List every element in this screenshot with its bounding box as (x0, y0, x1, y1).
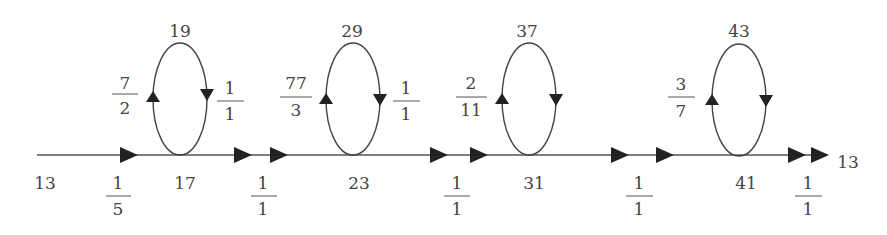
fraction-loop-left: 2 11 (456, 73, 487, 120)
fraction-loop-right: 1 1 (393, 78, 420, 124)
loop-41 (705, 44, 773, 156)
loop-top-label: 29 (341, 21, 363, 41)
svg-text:1: 1 (803, 173, 814, 193)
fraction-loop-left: 7 2 (112, 73, 138, 118)
svg-text:5: 5 (113, 199, 124, 219)
fraction-loop-right: 1 1 (217, 78, 244, 124)
svg-text:3: 3 (676, 74, 687, 94)
arrow-up-icon (495, 93, 509, 104)
fraction-edge: 1 1 (251, 173, 277, 219)
fraction-loop-left: 3 7 (668, 74, 695, 121)
loop-23 (319, 43, 387, 155)
svg-text:1: 1 (225, 104, 236, 124)
arrow-right-icon (430, 147, 448, 163)
arrow-right-icon (470, 147, 488, 163)
arrow-up-icon (146, 91, 160, 102)
loop-top-label: 43 (728, 21, 750, 41)
svg-text:3: 3 (291, 100, 302, 120)
svg-text:1: 1 (258, 199, 269, 219)
svg-text:1: 1 (258, 173, 269, 193)
loop-31 (495, 43, 563, 155)
svg-text:1: 1 (803, 199, 814, 219)
svg-text:1: 1 (452, 173, 463, 193)
loop-top-label: 37 (516, 21, 538, 41)
svg-text:2: 2 (120, 98, 131, 118)
arrow-right-icon (234, 147, 252, 163)
fraction-edge: 1 1 (795, 173, 822, 219)
svg-text:2: 2 (466, 73, 477, 93)
node-label: 41 (735, 173, 757, 193)
node-label: 17 (174, 173, 196, 193)
svg-text:1: 1 (634, 173, 645, 193)
loop-top-label: 19 (169, 21, 191, 41)
flow-diagram: 19 29 37 43 7 2 77 3 2 11 3 7 1 1 1 1 13… (0, 0, 887, 235)
svg-text:1: 1 (401, 104, 412, 124)
svg-text:1: 1 (452, 199, 463, 219)
arrow-right-icon (656, 147, 674, 163)
arrow-right-icon (611, 147, 629, 163)
arrow-down-icon (373, 94, 387, 106)
arrow-right-icon (788, 147, 806, 163)
loop-17 (146, 43, 214, 155)
arrow-up-icon (319, 93, 333, 104)
arrow-right-icon (811, 147, 829, 163)
svg-text:7: 7 (676, 101, 687, 121)
svg-text:11: 11 (460, 100, 482, 120)
arrow-right-icon (270, 147, 288, 163)
fraction-edge: 1 1 (444, 173, 470, 219)
node-label: 23 (348, 173, 370, 193)
svg-text:1: 1 (401, 78, 412, 98)
fraction-edge: 1 1 (626, 173, 653, 219)
svg-text:7: 7 (120, 73, 131, 93)
svg-text:1: 1 (225, 78, 236, 98)
svg-text:77: 77 (285, 73, 307, 93)
arrow-down-icon (549, 94, 563, 106)
arrow-up-icon (705, 94, 719, 105)
end-label: 13 (837, 152, 859, 172)
arrow-right-icon (120, 147, 138, 163)
fraction-edge: 1 5 (106, 173, 131, 219)
node-label: 31 (523, 173, 545, 193)
arrow-down-icon (759, 95, 773, 107)
fraction-loop-left: 77 3 (280, 73, 312, 120)
arrow-down-icon (200, 89, 214, 101)
svg-text:1: 1 (634, 199, 645, 219)
svg-text:1: 1 (113, 173, 124, 193)
start-label: 13 (34, 173, 56, 193)
